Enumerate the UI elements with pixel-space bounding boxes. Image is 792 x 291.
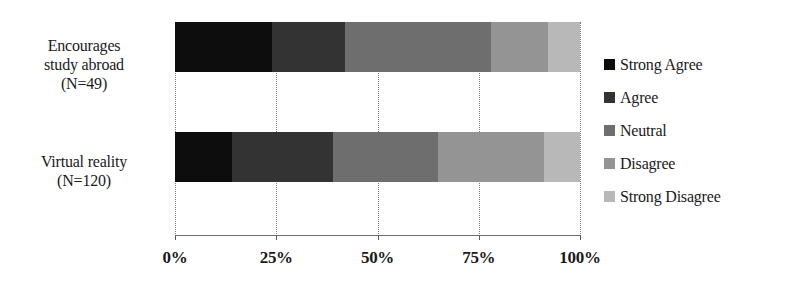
legend-label: Agree xyxy=(620,89,658,106)
category-label-line: (N=120) xyxy=(0,171,168,190)
legend-label: Strong Disagree xyxy=(620,188,721,205)
category-label-encourages-study-abroad: Encourages study abroad (N=49) xyxy=(0,36,168,93)
bar-segment-neutral xyxy=(345,22,491,72)
bar-segment-agree xyxy=(272,22,345,72)
bar-segment-strong-agree xyxy=(175,132,232,182)
legend-swatch-icon xyxy=(604,92,615,103)
gridline xyxy=(580,22,582,236)
bar-segment-strong-agree xyxy=(175,22,272,72)
category-label-virtual-reality: Virtual reality (N=120) xyxy=(0,152,168,190)
category-label-line: Virtual reality xyxy=(0,152,168,171)
stacked-bar-chart: Encourages study abroad (N=49) Virtual r… xyxy=(0,0,792,291)
x-tick-label: 75% xyxy=(462,248,495,268)
legend-swatch-icon xyxy=(604,191,615,202)
legend-swatch-icon xyxy=(604,158,615,169)
bar-segment-agree xyxy=(232,132,333,182)
legend-item[interactable]: Strong Disagree xyxy=(604,180,790,213)
legend-swatch-icon xyxy=(604,125,615,136)
x-axis-tick-labels: 0%25%50%75%100% xyxy=(0,248,792,276)
bar-segment-strong-disagree xyxy=(544,132,580,182)
x-tick-label: 25% xyxy=(260,248,293,268)
table-row xyxy=(175,22,580,72)
legend: Strong AgreeAgreeNeutralDisagreeStrong D… xyxy=(604,48,790,213)
legend-swatch-icon xyxy=(604,59,615,70)
category-label-line: study abroad xyxy=(0,55,168,74)
bar-segment-disagree xyxy=(438,132,543,182)
legend-item[interactable]: Neutral xyxy=(604,114,790,147)
axis-tickmark xyxy=(378,235,379,240)
legend-item[interactable]: Strong Agree xyxy=(604,48,790,81)
bar-segment-strong-disagree xyxy=(548,22,580,72)
axis-tickmark xyxy=(580,235,581,240)
x-tick-label: 50% xyxy=(361,248,394,268)
legend-item[interactable]: Agree xyxy=(604,81,790,114)
table-row xyxy=(175,132,580,182)
legend-label: Disagree xyxy=(620,155,675,172)
bar-segment-disagree xyxy=(491,22,548,72)
legend-item[interactable]: Disagree xyxy=(604,147,790,180)
x-tick-label: 100% xyxy=(559,248,600,268)
legend-label: Strong Agree xyxy=(620,56,702,73)
axis-tickmark xyxy=(276,235,277,240)
bar-segment-neutral xyxy=(333,132,438,182)
category-label-line: Encourages xyxy=(0,36,168,55)
x-tick-label: 0% xyxy=(163,248,188,268)
axis-tickmark xyxy=(479,235,480,240)
category-label-line: (N=49) xyxy=(0,74,168,93)
axis-tickmark xyxy=(175,235,176,240)
legend-label: Neutral xyxy=(620,122,667,139)
